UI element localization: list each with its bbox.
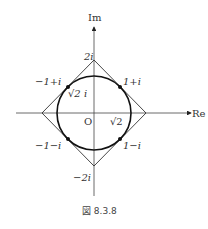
bottom-vertex-label: −2i (73, 172, 91, 183)
figure-caption: 図 8.3.8 (82, 206, 117, 216)
label-neg1-plus-i: −1+i (35, 76, 61, 87)
point-1-plus-i (118, 85, 122, 89)
label-neg1-minus-i: −1−i (35, 140, 61, 151)
label-sqrt2-real: √2 (110, 116, 123, 127)
complex-plane-diagram: Im Re O 2i −2i −1+i 1+i −1−i 1−i √2 √2 i… (0, 0, 208, 229)
re-axis-label: Re (192, 108, 206, 119)
origin-label: O (84, 116, 92, 127)
point-1-minus-i (118, 137, 122, 141)
label-1-minus-i: 1−i (123, 140, 141, 151)
im-axis-label: Im (88, 12, 102, 23)
top-vertex-label: 2i (83, 51, 94, 62)
point-neg1-minus-i (66, 137, 70, 141)
label-sqrt2-imag: √2 i (68, 88, 87, 99)
label-1-plus-i: 1+i (123, 76, 141, 87)
